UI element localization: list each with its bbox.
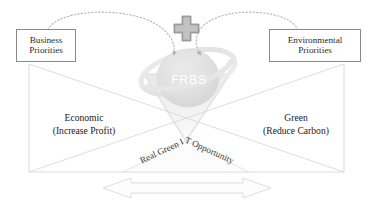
label-economic: Economic (Increase Profit) [28, 112, 140, 138]
double-headed-arrow-icon [103, 178, 271, 198]
environmental-priorities-line1: Environmental [288, 35, 343, 45]
diagram-canvas: Real Green IT Opportunity Business Prior… [0, 0, 373, 202]
node-business-priorities[interactable]: Business Priorities [16, 29, 76, 62]
business-priorities-line2: Priorities [29, 45, 63, 55]
economic-line2: (Increase Profit) [28, 125, 140, 138]
economic-line1: Economic [28, 112, 140, 125]
dotted-connector-arcs [48, 12, 298, 54]
plus-cross-icon [174, 16, 199, 41]
green-line1: Green [240, 112, 352, 125]
environmental-priorities-line2: Priorities [298, 45, 332, 55]
business-priorities-line1: Business [30, 35, 63, 45]
label-green: Green (Reduce Carbon) [240, 112, 352, 138]
node-environmental-priorities[interactable]: Environmental Priorities [269, 29, 361, 62]
green-line2: (Reduce Carbon) [240, 125, 352, 138]
